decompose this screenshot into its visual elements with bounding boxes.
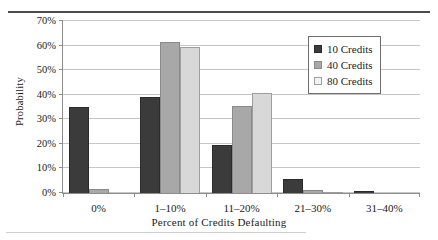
legend-swatch-10-credits (314, 45, 322, 53)
legend-item: 40 Credits (314, 57, 373, 73)
legend-item: 10 Credits (314, 41, 373, 57)
bar-group-bars (134, 21, 205, 193)
bar-group: 11–20% (206, 21, 277, 193)
x-axis-tick (206, 193, 207, 197)
x-axis-tick-label: 21–30% (277, 202, 348, 214)
y-axis-tick-label: 70% (37, 15, 56, 26)
legend-item-label: 80 Credits (327, 76, 373, 87)
bar-10-credits (283, 179, 303, 193)
bottom-horizontal-rule (6, 232, 306, 233)
bar-group: 1–10% (134, 21, 205, 193)
bar-80-credits (323, 192, 343, 193)
y-axis-tick-label: 30% (37, 113, 56, 124)
legend-swatch-80-credits (314, 77, 322, 85)
bar-10-credits (140, 97, 160, 193)
x-axis-tick (63, 193, 64, 197)
figure-chart-credits-defaulting: Probability Percent of Credits Defaultin… (0, 0, 438, 240)
x-axis-tick-label: 0% (63, 202, 134, 214)
x-axis-tick-label: 1–10% (134, 202, 205, 214)
legend-item: 80 Credits (314, 73, 373, 89)
bar-40-credits (160, 42, 180, 193)
bar-10-credits (212, 145, 232, 193)
legend: 10 Credits40 Credits80 Credits (308, 36, 381, 94)
bar-10-credits (69, 107, 89, 193)
bar-group-bars (63, 21, 134, 193)
bar-40-credits (89, 189, 109, 193)
bar-40-credits (232, 106, 252, 193)
cut-off-caption-fragment (120, 0, 320, 4)
y-axis-tick-label: 20% (37, 137, 56, 148)
bar-group-bars (206, 21, 277, 193)
x-axis-tick-label: 31–40% (349, 202, 420, 214)
legend-item-label: 10 Credits (327, 44, 373, 55)
x-axis-tick (134, 193, 135, 197)
x-axis-title: Percent of Credits Defaulting (0, 216, 438, 228)
x-axis-tick-label: 11–20% (206, 202, 277, 214)
y-axis-title: Probability (14, 47, 25, 157)
bar-group: 0% (63, 21, 134, 193)
x-axis-tick (349, 193, 350, 197)
y-axis-tick-label: 10% (37, 162, 56, 173)
y-axis-tick-label: 60% (37, 39, 56, 50)
x-axis-tick (419, 193, 420, 197)
bar-40-credits (303, 190, 323, 193)
legend-item-label: 40 Credits (327, 60, 373, 71)
bar-80-credits (252, 93, 272, 193)
bar-10-credits (354, 191, 374, 193)
top-horizontal-rule (8, 11, 430, 13)
y-axis-tick-label: 40% (37, 88, 56, 99)
y-axis-tick-label: 0% (42, 187, 56, 198)
x-axis-tick (277, 193, 278, 197)
y-axis-tick-label: 50% (37, 64, 56, 75)
bar-80-credits (180, 47, 200, 193)
legend-swatch-40-credits (314, 61, 322, 69)
